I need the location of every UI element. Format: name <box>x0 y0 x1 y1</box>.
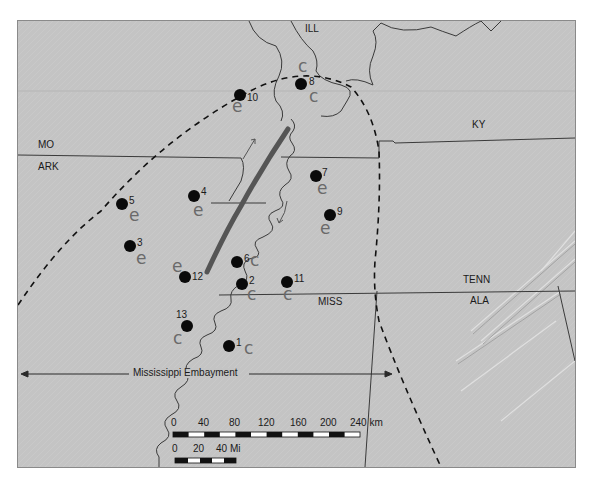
scale-mi-tick: 20 <box>193 444 204 454</box>
site-mark: e <box>317 180 327 197</box>
scale-km-tick: 0 <box>171 418 177 428</box>
scale-km-tick: 160 <box>290 418 307 428</box>
site-dot <box>181 320 193 332</box>
map-overlay: ILL MO ARK KY TENN MISS ALA 1 c 2 c 3 e … <box>0 0 592 483</box>
site-dot <box>295 78 307 90</box>
scale-km-tick: 80 <box>229 418 240 428</box>
site-mark: e <box>129 207 139 224</box>
state-label-tenn: TENN <box>463 275 490 285</box>
site-mark: e <box>193 202 203 219</box>
scale-km-tick: 40 <box>198 418 209 428</box>
site-mark: c <box>247 286 256 303</box>
site-mark: c <box>298 58 307 75</box>
site-number: 3 <box>137 238 143 248</box>
state-label-ky: KY <box>472 120 485 130</box>
site-mark: c <box>173 330 182 347</box>
scale-km-tick: 120 <box>258 418 275 428</box>
scale-km-tick: 240 km <box>350 418 383 428</box>
scale-mi-tick: 40 Mi <box>216 444 240 454</box>
state-label-ala: ALA <box>470 296 489 306</box>
site-number: 11 <box>294 274 304 284</box>
site-number: 1 <box>236 338 242 348</box>
site-dot <box>116 198 128 210</box>
site-number: 12 <box>192 272 203 282</box>
site-number: 10 <box>247 93 258 103</box>
state-label-ill: ILL <box>305 24 319 34</box>
site-mark: c <box>283 286 292 303</box>
site-mark: c <box>244 340 253 357</box>
site-number: 13 <box>176 310 187 320</box>
state-label-ark: ARK <box>38 162 59 172</box>
site-mark: e <box>136 250 146 267</box>
scale-km-tick: 200 <box>320 418 337 428</box>
site-number: 7 <box>322 168 328 178</box>
site-8-mark-secondary: c <box>309 88 318 105</box>
site-dot <box>231 256 243 268</box>
site-number: 6 <box>244 254 250 264</box>
site-mark: e <box>320 220 330 237</box>
state-label-mo: MO <box>38 140 54 150</box>
site-mark: e <box>232 98 242 115</box>
site-mark: e <box>172 258 182 275</box>
site-number: 9 <box>337 207 343 217</box>
site-dot <box>124 240 136 252</box>
scale-mi-tick: 0 <box>172 444 178 454</box>
site-dot <box>223 340 235 352</box>
state-label-miss: MISS <box>318 297 342 307</box>
site-mark: c <box>250 252 259 269</box>
embayment-label: Mississippi Embayment <box>130 368 240 378</box>
site-number: 4 <box>201 187 207 197</box>
